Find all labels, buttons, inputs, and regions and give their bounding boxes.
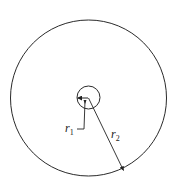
r1-leader-arrowhead — [84, 100, 87, 104]
concentric-circles-diagram: r1 r2 — [0, 0, 180, 188]
r1-leader-line — [77, 101, 85, 129]
r2-label: r2 — [111, 127, 120, 143]
r1-label: r1 — [65, 121, 74, 137]
